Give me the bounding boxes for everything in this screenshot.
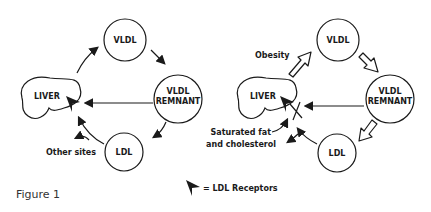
lipoprotein-diagram: LIVER VLDL VLDL REMNANT LDL Other sites … bbox=[0, 0, 431, 212]
right-vldl-label: VLDL bbox=[326, 36, 349, 45]
left-panel: LIVER VLDL VLDL REMNANT LDL Other sites bbox=[21, 19, 202, 171]
left-vldl-label: VLDL bbox=[113, 36, 136, 45]
right-hollow-arrow-remnant-to-ldl bbox=[359, 120, 377, 141]
right-panel: LIVER VLDL VLDL REMNANT LDL Obesity Satu… bbox=[206, 19, 414, 172]
left-vldl-remnant-label-2: REMNANT bbox=[156, 97, 201, 106]
legend-label: = LDL Receptors bbox=[203, 184, 278, 193]
legend-ldl-receptor-icon bbox=[186, 180, 200, 196]
right-arrow-saturated-fat bbox=[272, 120, 287, 132]
right-arrow-ldl-to-liver bbox=[298, 129, 317, 144]
right-arrow-to-other-sites bbox=[288, 134, 298, 142]
figure-caption: Figure 1 bbox=[16, 188, 60, 201]
right-hollow-arrow-liver-to-vldl bbox=[289, 52, 311, 77]
right-vldl-remnant-label-2: REMNANT bbox=[368, 97, 413, 106]
right-ldl-label: LDL bbox=[329, 149, 346, 158]
right-obesity-label: Obesity bbox=[255, 51, 290, 60]
left-ldl-label: LDL bbox=[116, 148, 133, 157]
left-other-sites-label: Other sites bbox=[46, 148, 96, 157]
right-hollow-arrow-vldl-to-remnant bbox=[359, 53, 378, 72]
right-saturated-label-1: Saturated fat bbox=[211, 128, 272, 137]
right-receptor-blocked-x bbox=[290, 102, 302, 120]
right-saturated-label-2: and cholesterol bbox=[206, 140, 276, 149]
left-arrow-liver-to-vldl bbox=[77, 48, 97, 73]
legend: = LDL Receptors bbox=[186, 180, 278, 196]
left-arrow-ldl-to-liver bbox=[79, 118, 104, 144]
right-ldl-receptor-icon bbox=[280, 96, 294, 112]
right-liver-label: LIVER bbox=[250, 92, 276, 101]
left-arrow-vldl-to-remnant bbox=[151, 50, 164, 63]
left-vldl-remnant-label-1: VLDL bbox=[166, 87, 189, 96]
left-arrow-remnant-to-ldl bbox=[154, 122, 166, 137]
right-vldl-remnant-label-1: VLDL bbox=[378, 87, 401, 96]
left-liver-label: LIVER bbox=[34, 92, 60, 101]
left-arrow-to-other-sites bbox=[76, 136, 89, 140]
